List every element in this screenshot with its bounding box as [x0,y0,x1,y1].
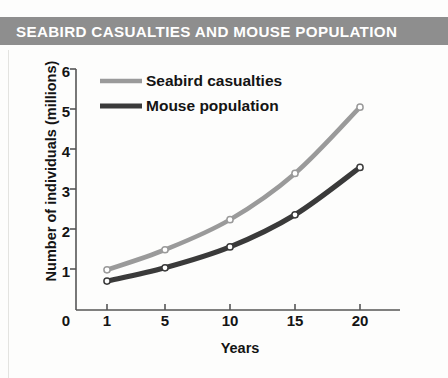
x-tick-marks [107,304,360,310]
data-point-seabird-casualties-15 [292,170,298,176]
data-point-mouse-population-10 [227,244,233,250]
chart-plot-area [0,45,448,378]
data-point-seabird-casualties-10 [227,217,233,223]
data-point-mouse-population-1 [104,278,110,284]
chart-title-banner: SEABIRD CASUALTIES AND MOUSE POPULATION [0,17,448,45]
y-tick-marks [70,69,76,269]
data-point-seabird-casualties-1 [104,267,110,273]
data-point-seabird-casualties-20 [357,104,363,110]
chart-figure: Number of individuals (millions) Years 6… [0,45,448,378]
data-series-layer [104,104,363,284]
data-point-mouse-population-5 [162,265,168,271]
data-point-mouse-population-20 [357,164,363,170]
data-point-mouse-population-15 [292,212,298,218]
page-title: SEABIRD CASUALTIES AND MOUSE POPULATION [16,23,397,40]
data-point-seabird-casualties-5 [162,247,168,253]
series-line-mouse-population [107,167,360,281]
